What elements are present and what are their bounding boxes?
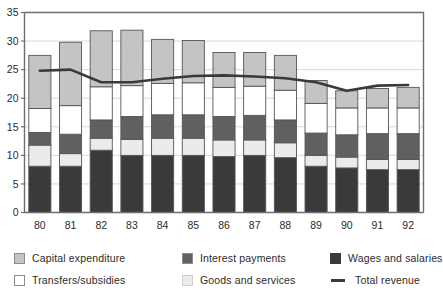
chart-legend: Capital expenditure Interest payments Wa… (0, 243, 437, 295)
legend-item-wages-and-salaries: Wages and salaries (330, 252, 443, 264)
bar-group-84 (152, 39, 174, 212)
bar-segment (366, 89, 388, 108)
legend-swatch-transfers-subsidies (14, 275, 25, 286)
bar-segment (90, 138, 112, 150)
bar-segment (59, 134, 81, 153)
bar-segment (305, 155, 327, 166)
bar-group-82 (90, 31, 112, 213)
bar-segment (152, 115, 174, 138)
y-tick-label: 10 (7, 149, 19, 161)
bar-segment (244, 115, 266, 140)
bar-segment (121, 30, 143, 85)
bar-segment (213, 157, 235, 213)
bar-segment (121, 139, 143, 155)
bar-segment (244, 140, 266, 155)
y-tick-label: 30 (7, 35, 19, 47)
bar-segment (397, 134, 419, 160)
bar-segment (90, 87, 112, 120)
bar-segment (366, 134, 388, 160)
bar-segment (336, 135, 358, 157)
bar-group-90 (336, 91, 358, 213)
bar-segment (121, 155, 143, 212)
y-tick-label: 15 (7, 121, 19, 133)
bar-group-91 (366, 89, 388, 213)
bar-segment (152, 39, 174, 83)
bar-group-83 (121, 30, 143, 212)
bar-segment (29, 166, 51, 212)
x-tick-label: 90 (341, 219, 353, 231)
legend-item-transfers-subsidies: Transfers/subsidies (14, 274, 182, 286)
legend-swatch-wages-and-salaries (330, 253, 341, 264)
bar-segment (305, 133, 327, 155)
bar-segment (213, 140, 235, 157)
bar-segment (336, 157, 358, 168)
legend-label-capital-expenditure: Capital expenditure (32, 252, 125, 264)
bar-segment (213, 117, 235, 140)
legend-label-transfers-subsidies: Transfers/subsidies (32, 274, 126, 286)
bar-segment (366, 159, 388, 169)
bar-segment (305, 166, 327, 212)
bar-segment (121, 86, 143, 117)
bar-segment (90, 150, 112, 212)
bar-segment (336, 168, 358, 213)
bar-segment (274, 158, 296, 213)
stacked-bar-chart: 0510152025303580818283848586878889909192 (0, 0, 437, 240)
x-tick-label: 87 (249, 219, 261, 231)
bar-group-81 (59, 42, 81, 212)
x-tick-label: 80 (34, 219, 46, 231)
legend-label-goods-and-services: Goods and services (200, 274, 296, 286)
bar-segment (274, 120, 296, 143)
bar-segment (59, 166, 81, 212)
bar-segment (182, 83, 204, 115)
bar-segment (244, 86, 266, 115)
bar-segment (152, 155, 174, 212)
bar-segment (90, 120, 112, 138)
bar-segment (152, 138, 174, 155)
x-tick-label: 91 (372, 219, 384, 231)
bar-segment (182, 138, 204, 155)
y-tick-label: 20 (7, 92, 19, 104)
legend-swatch-capital-expenditure (14, 253, 25, 264)
bar-segment (274, 143, 296, 158)
y-tick-label: 35 (7, 6, 19, 18)
y-tick-label: 25 (7, 63, 19, 75)
bar-segment (213, 87, 235, 116)
x-tick-label: 92 (402, 219, 414, 231)
bar-segment (397, 87, 419, 108)
bar-segment (29, 133, 51, 146)
bar-segment (182, 155, 204, 212)
bar-segment (397, 170, 419, 213)
y-tick-label: 0 (13, 206, 19, 218)
legend-label-wages-and-salaries: Wages and salaries (348, 252, 443, 264)
bar-segment (274, 55, 296, 90)
bar-group-89 (305, 81, 327, 213)
bar-segment (397, 108, 419, 134)
legend-item-goods-and-services: Goods and services (182, 274, 330, 286)
y-tick-label: 5 (13, 178, 19, 190)
bar-segment (274, 90, 296, 120)
legend-swatch-interest-payments (182, 253, 193, 264)
bar-segment (29, 55, 51, 108)
legend-item-total-revenue: Total revenue (330, 274, 443, 286)
x-tick-label: 89 (310, 219, 322, 231)
legend-item-interest-payments: Interest payments (182, 252, 330, 264)
bar-segment (152, 83, 174, 114)
legend-grid: Capital expenditure Interest payments Wa… (14, 247, 443, 291)
plot-area: 0510152025303580818283848586878889909192 (0, 0, 437, 240)
bar-group-92 (397, 87, 419, 212)
bar-segment (121, 117, 143, 140)
bar-group-80 (29, 55, 51, 212)
bar-segment (336, 91, 358, 108)
legend-swatch-total-revenue (331, 279, 345, 282)
bar-segment (244, 155, 266, 212)
x-tick-label: 84 (157, 219, 169, 231)
x-tick-label: 81 (65, 219, 77, 231)
x-tick-label: 83 (126, 219, 138, 231)
bar-segment (213, 53, 235, 88)
bar-segment (366, 108, 388, 134)
bar-segment (182, 115, 204, 138)
legend-swatch-goods-and-services (182, 275, 193, 286)
x-tick-label: 88 (280, 219, 292, 231)
bar-segment (59, 154, 81, 167)
